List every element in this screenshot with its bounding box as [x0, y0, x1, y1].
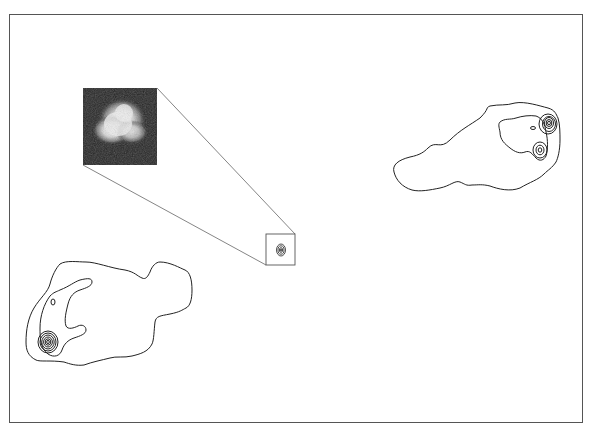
south-west-lobe	[26, 262, 192, 366]
north-east-lobe	[394, 103, 560, 191]
core-box	[266, 234, 295, 265]
contour-map	[0, 0, 591, 430]
connector-line-top	[157, 88, 295, 234]
connector-line-bottom	[83, 165, 266, 265]
figure-canvas	[0, 0, 591, 430]
core-image-inset	[83, 88, 157, 165]
